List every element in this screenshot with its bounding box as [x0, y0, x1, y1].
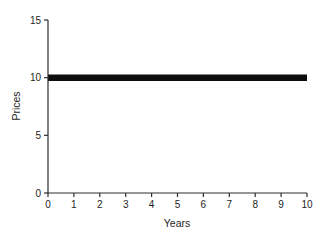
x-tick-label: 3 [123, 199, 129, 210]
axes-spine [48, 20, 307, 193]
y-tick-label: 0 [35, 188, 41, 199]
x-tick-label: 5 [175, 199, 181, 210]
y-axis-label: Prices [11, 91, 22, 120]
x-tick-label: 8 [252, 199, 258, 210]
x-tick-label: 7 [227, 199, 233, 210]
x-tick-label: 9 [278, 199, 284, 210]
x-tick-label: 1 [71, 199, 77, 210]
y-tick-label: 10 [30, 72, 42, 83]
chart-plot-area: 051015012345678910 [0, 0, 328, 237]
x-axis-label: Years [164, 218, 190, 229]
x-tick-label: 0 [45, 199, 51, 210]
x-tick-label: 2 [97, 199, 103, 210]
x-tick-label: 4 [149, 199, 155, 210]
x-tick-label: 6 [201, 199, 207, 210]
y-tick-label: 15 [30, 15, 42, 26]
y-tick-label: 5 [35, 130, 41, 141]
x-tick-label: 10 [301, 199, 313, 210]
price-chart-figure: 051015012345678910 Prices Years [0, 0, 328, 237]
